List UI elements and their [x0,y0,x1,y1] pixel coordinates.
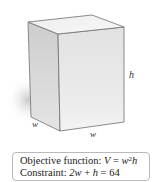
constraint-operator: + [82,167,93,178]
objective-base: w [122,155,129,166]
constraint-line: Constraint: 2w + h = 64 [20,167,149,179]
objective-tail: h [132,155,137,166]
constraint-rhs: = 64 [98,167,120,178]
width-label-bottom: w [90,130,96,139]
objective-equals: = [110,155,121,166]
objective-prefix: Objective function: [20,155,104,166]
box-left-face [28,22,60,131]
box-front-face [58,27,124,131]
height-label: h [129,70,134,80]
constraint-term-a: 2w [69,167,81,178]
equations-box: Objective function: V = w2h Constraint: … [12,152,150,181]
constraint-prefix: Constraint: [20,167,69,178]
width-label-left: w [32,120,38,129]
objective-function-line: Objective function: V = w2h [20,155,149,167]
